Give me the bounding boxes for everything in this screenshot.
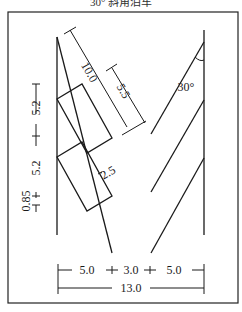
dim-5-0-right-label: 5.0 <box>167 263 182 277</box>
dim-5-5-tick-top <box>106 64 117 71</box>
dim-10-tick-top <box>64 27 76 34</box>
caption: 30° 斜角泊车 <box>90 0 152 8</box>
dim-3-0-label: 3.0 <box>124 263 139 277</box>
right-diagonal-3 <box>151 158 204 253</box>
dim-10-label: 10.0 <box>78 59 101 84</box>
right-diagonal-2 <box>151 100 204 192</box>
angle-arc <box>195 57 204 61</box>
dim-5-2-lower-label: 5.2 <box>29 161 43 176</box>
dim-13-label: 13.0 <box>121 281 142 295</box>
dim-5-0-left-label: 5.0 <box>80 263 95 277</box>
dim-5-2-upper-label: 5.2 <box>29 101 43 116</box>
dim-0-85-label: 0.85 <box>19 191 33 212</box>
parking-diagram: 30° 斜角泊车 10.0 5.5 2.5 5.2 5.2 <box>0 0 242 312</box>
dim-5-5-tick-bottom <box>122 121 146 135</box>
angle-label: 30° <box>178 80 195 94</box>
